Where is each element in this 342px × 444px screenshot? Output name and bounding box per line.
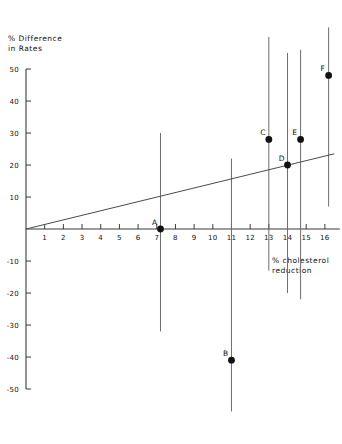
y-axis-tick-label: -50 [7, 386, 19, 394]
x-axis-tick-label: 7 [154, 234, 159, 242]
x-axis-tick-label: 2 [61, 234, 66, 242]
x-axis-tick-label: 6 [136, 234, 141, 242]
x-axis-tick-label: 9 [192, 234, 197, 242]
x-axis-tick-label: 12 [245, 234, 255, 242]
y-axis-tick-label: 10 [9, 194, 19, 202]
data-point-label-e: E [292, 128, 297, 137]
scatter-plot: 5040302010-10-20-30-40-50 12345678910111… [0, 0, 342, 444]
x-axis: 12345678910111213141516 [26, 224, 340, 242]
data-points: ABCDEF [152, 64, 332, 364]
y-axis-tick-label: 20 [9, 162, 19, 170]
data-point-label-d: D [279, 154, 285, 163]
data-point-d [284, 162, 291, 169]
data-point-label-c: C [260, 128, 265, 137]
x-axis-tick-label: 3 [80, 234, 85, 242]
x-axis-tick-label: 16 [320, 234, 330, 242]
y-axis-tick-label: -30 [7, 322, 19, 330]
x-axis-tick-label: 1 [42, 234, 47, 242]
data-point-label-b: B [223, 349, 228, 358]
y-axis: 5040302010-10-20-30-40-50 [7, 66, 31, 394]
data-point-a [157, 226, 164, 233]
x-axis-tick-label: 10 [208, 234, 218, 242]
y-axis-tick-label: 30 [9, 130, 19, 138]
data-point-f [325, 72, 332, 79]
y-axis-tick-label: -40 [7, 354, 19, 362]
x-axis-tick-label: 4 [98, 234, 103, 242]
error-bars [160, 27, 328, 411]
x-axis-tick-label: 5 [117, 234, 122, 242]
data-point-b [228, 357, 235, 364]
data-point-label-f: F [320, 64, 324, 73]
data-point-label-a: A [152, 218, 158, 227]
chart-figure: % Differencein Rates % cholesterolreduct… [0, 0, 342, 444]
x-axis-tick-label: 15 [301, 234, 311, 242]
data-point-e [297, 136, 304, 143]
y-axis-tick-label: 40 [9, 98, 19, 106]
y-axis-tick-label: -20 [7, 290, 19, 298]
data-point-c [265, 136, 272, 143]
y-axis-tick-label: -10 [7, 258, 19, 266]
x-axis-tick-label: 8 [173, 234, 178, 242]
y-axis-tick-label: 50 [9, 66, 19, 74]
